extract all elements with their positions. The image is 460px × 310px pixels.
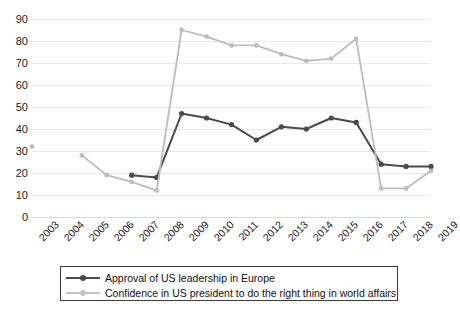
series-layer bbox=[32, 19, 431, 217]
data-point-marker bbox=[304, 58, 309, 63]
x-axis-tick-label: 2008 bbox=[162, 219, 186, 243]
chart-legend: Approval of US leadership in Europe Conf… bbox=[60, 266, 398, 301]
x-axis-tick-label: 2018 bbox=[411, 219, 435, 243]
data-point-marker bbox=[354, 120, 359, 125]
data-point-marker bbox=[229, 122, 234, 127]
x-axis-tick-label: 2009 bbox=[186, 219, 210, 243]
data-point-marker bbox=[204, 115, 209, 120]
series-confidence bbox=[30, 28, 434, 193]
y-axis-tick-label: 40 bbox=[2, 124, 28, 135]
x-axis-tick-label: 2015 bbox=[336, 219, 360, 243]
series-line bbox=[82, 30, 431, 191]
x-axis-tick-label: 2004 bbox=[62, 219, 86, 243]
y-axis-tick-label: 50 bbox=[2, 102, 28, 113]
data-point-marker bbox=[428, 164, 433, 169]
data-point-marker bbox=[129, 173, 134, 178]
y-axis-tick-label: 80 bbox=[2, 36, 28, 47]
y-axis-tick-label: 30 bbox=[2, 146, 28, 157]
data-point-marker bbox=[254, 43, 259, 48]
data-point-marker bbox=[129, 179, 134, 184]
x-axis-tick-label: 2014 bbox=[311, 219, 335, 243]
data-point-marker bbox=[403, 164, 408, 169]
y-axis-tick-label: 20 bbox=[2, 168, 28, 179]
data-point-marker bbox=[254, 137, 259, 142]
data-point-marker bbox=[329, 56, 334, 61]
legend-marker-confidence bbox=[66, 288, 100, 298]
y-axis-tick-label: 70 bbox=[2, 58, 28, 69]
legend-label-confidence: Confidence in US president to do the rig… bbox=[105, 287, 396, 299]
x-axis-tick-label: 2011 bbox=[236, 219, 260, 243]
x-axis-tick-label: 2019 bbox=[436, 219, 460, 243]
y-axis-tick-label: 90 bbox=[2, 14, 28, 25]
legend-marker-approval bbox=[66, 273, 100, 283]
data-point-marker bbox=[404, 186, 409, 191]
data-point-marker bbox=[179, 111, 184, 116]
data-point-marker bbox=[79, 153, 84, 158]
x-axis-tick-label: 2005 bbox=[87, 219, 111, 243]
legend-label-approval: Approval of US leadership in Europe bbox=[105, 272, 275, 284]
data-point-marker bbox=[304, 126, 309, 131]
y-axis-tick-label: 0 bbox=[2, 212, 28, 223]
legend-item-approval: Approval of US leadership in Europe bbox=[66, 270, 392, 285]
plot-area bbox=[32, 19, 431, 217]
x-axis-tick-label: 2013 bbox=[286, 219, 310, 243]
y-axis-tick-label: 10 bbox=[2, 190, 28, 201]
x-axis-tick-label: 2017 bbox=[386, 219, 410, 243]
data-point-marker bbox=[279, 52, 284, 57]
data-point-marker bbox=[179, 28, 184, 33]
data-point-marker bbox=[30, 144, 35, 149]
x-axis-tick-label: 2003 bbox=[37, 219, 61, 243]
x-axis-tick-label: 2007 bbox=[137, 219, 161, 243]
x-axis: 2003200420052006200720082009201020112012… bbox=[32, 219, 431, 271]
x-axis-tick-label: 2010 bbox=[211, 219, 235, 243]
x-axis-tick-label: 2016 bbox=[361, 219, 385, 243]
data-point-marker bbox=[379, 186, 384, 191]
data-point-marker bbox=[229, 43, 234, 48]
axis-baseline bbox=[32, 217, 431, 218]
series-approval bbox=[129, 111, 433, 180]
data-point-marker bbox=[329, 115, 334, 120]
data-point-marker bbox=[204, 34, 209, 39]
data-point-marker bbox=[104, 173, 109, 178]
data-point-marker bbox=[429, 168, 434, 173]
data-point-marker bbox=[379, 162, 384, 167]
x-axis-tick-label: 2012 bbox=[261, 219, 285, 243]
x-axis-tick-label: 2006 bbox=[112, 219, 136, 243]
data-point-marker bbox=[354, 36, 359, 41]
series-line bbox=[132, 114, 431, 178]
data-point-marker bbox=[154, 188, 159, 193]
y-axis-tick-label: 60 bbox=[2, 80, 28, 91]
legend-item-confidence: Confidence in US president to do the rig… bbox=[66, 285, 392, 300]
data-point-marker bbox=[279, 124, 284, 129]
